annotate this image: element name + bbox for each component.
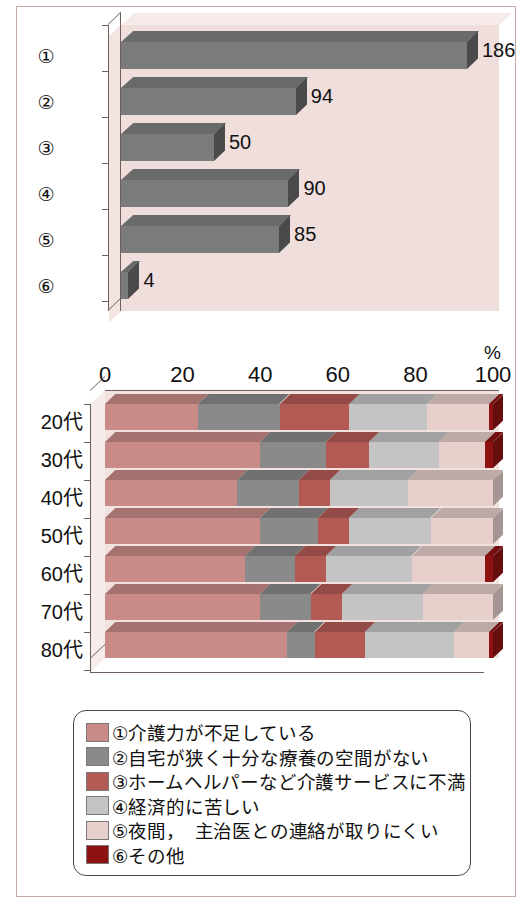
stack-segment-top	[260, 432, 336, 442]
bar-value-label: 85	[294, 223, 316, 246]
bar-value-label: 186	[482, 39, 515, 62]
stack-segment-top	[105, 394, 208, 404]
bar-front-face	[121, 180, 288, 207]
bar-value-label: 50	[229, 131, 251, 154]
stacked-bar-row	[17, 584, 515, 620]
stack-segment-front	[280, 404, 350, 430]
bottom-stacked-bar-chart: % 020406080100 20代30代40代50代60代70代80代	[17, 342, 515, 692]
stack-segment-top	[330, 470, 418, 480]
stack-segment-front	[485, 556, 493, 582]
stack-segment-front	[299, 480, 330, 506]
legend-label: ①介護力が不足している	[112, 719, 315, 745]
stack-segment-front	[105, 480, 237, 506]
stack-segment-top	[369, 432, 449, 442]
percent-unit-label: %	[484, 342, 501, 364]
stack-segment-top	[342, 584, 434, 594]
stack-segment-front	[105, 404, 198, 430]
top-bar	[121, 261, 128, 299]
stack-segment-top	[105, 508, 271, 518]
stack-segment-top	[408, 470, 504, 480]
plot2-front-base	[90, 672, 484, 673]
x-tick-label: 100	[475, 362, 512, 388]
axis-tick	[102, 117, 109, 118]
legend-label: ⑤夜間， 主治医との連絡が取りにくい	[112, 817, 439, 843]
axis-tick	[102, 71, 109, 72]
legend-item: ②自宅が狭く十分な療養の空間がない	[86, 745, 470, 770]
legend-swatch-icon	[86, 796, 109, 815]
top-bar	[121, 169, 288, 207]
stack-segment-front	[245, 556, 295, 582]
stack-segment-top	[365, 622, 465, 632]
stack-segment-top	[349, 394, 437, 404]
stack-segment-front	[454, 632, 489, 658]
bar-top-face	[121, 31, 479, 42]
axis-tick	[84, 670, 91, 671]
top-category-label: ④	[31, 183, 61, 205]
stack-segment-top	[423, 584, 503, 594]
stacked-bar-row	[17, 546, 515, 582]
chart-legend: ①介護力が不足している②自宅が狭く十分な療養の空間がない③ホームヘルパーなど介護…	[73, 710, 471, 876]
top-category-label: ⑥	[31, 275, 61, 297]
stack-segment-front	[330, 480, 408, 506]
bar-top-face	[121, 215, 291, 226]
legend-swatch-icon	[86, 845, 109, 864]
stack-segment-top	[326, 546, 422, 556]
top-category-label: ⑤	[31, 229, 61, 251]
stack-segment-front	[105, 594, 260, 620]
bar-top-face	[121, 123, 226, 134]
bar-front-face	[121, 134, 214, 161]
legend-item: ①介護力が不足している	[86, 720, 470, 745]
x-tick-label: 20	[170, 362, 194, 388]
stack-segment-front	[105, 518, 260, 544]
stack-segment-front	[295, 556, 326, 582]
bar-top-face	[121, 169, 301, 180]
top-category-label: ③	[31, 137, 61, 159]
stack-segment-front	[237, 480, 299, 506]
axis-tick	[102, 163, 109, 164]
stacked-bar-row	[17, 470, 515, 506]
plot-top-surface	[121, 13, 512, 25]
stack-segment-front	[260, 442, 326, 468]
axis-tick	[102, 301, 109, 302]
stack-segment-top	[349, 508, 441, 518]
top-bar	[121, 123, 214, 161]
legend-item: ⑤夜間， 主治医との連絡が取りにくい	[86, 818, 470, 843]
x-tick-label: 80	[403, 362, 427, 388]
stacked-bar-row	[17, 622, 515, 658]
legend-swatch-icon	[86, 772, 109, 791]
legend-label: ⑥その他	[112, 842, 185, 868]
x-tick-label: 60	[326, 362, 350, 388]
top-bar-chart: ①②③④⑤⑥ 186945090854	[17, 7, 515, 342]
legend-swatch-icon	[86, 723, 109, 742]
bar-front-face	[121, 42, 467, 69]
legend-label: ③ホームヘルパーなど介護サービスに不満	[112, 768, 466, 794]
top-bar	[121, 215, 279, 253]
stack-segment-top	[105, 470, 247, 480]
stack-segment-front	[342, 594, 423, 620]
stack-segment-front	[326, 556, 411, 582]
bar-value-label: 90	[303, 177, 325, 200]
stack-segment-front	[439, 442, 486, 468]
stack-segment-front	[427, 404, 489, 430]
stack-segment-top	[105, 432, 271, 442]
stacked-bar-row	[17, 508, 515, 544]
stack-segment-top	[105, 584, 271, 594]
stack-segment-front	[412, 556, 486, 582]
stack-segment-front	[326, 442, 369, 468]
stack-segment-front	[485, 442, 493, 468]
legend-item: ④経済的に苦しい	[86, 794, 470, 819]
top-category-label: ①	[31, 45, 61, 67]
stack-segment-top	[105, 622, 298, 632]
legend-swatch-icon	[86, 747, 109, 766]
stack-segment-front	[105, 442, 260, 468]
stack-segment-front	[260, 594, 310, 620]
stack-segment-top	[237, 470, 309, 480]
stacked-bar-row	[17, 432, 515, 468]
stack-segment-top	[105, 546, 255, 556]
x-tick-label: 0	[99, 362, 111, 388]
bar-value-label: 4	[143, 269, 154, 292]
stack-segment-front	[365, 632, 454, 658]
plot2-top-axis	[105, 390, 499, 391]
axis-tick	[102, 255, 109, 256]
stacked-bar-row	[17, 394, 515, 430]
